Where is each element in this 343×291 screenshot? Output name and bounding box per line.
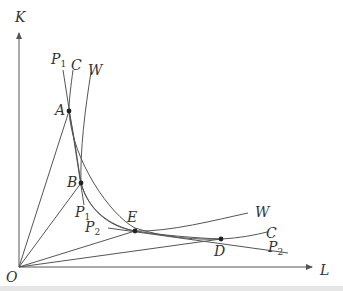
point-D — [219, 237, 224, 242]
point-A-label: A — [55, 103, 65, 117]
ray-OB — [19, 183, 81, 267]
point-D-label: D — [214, 244, 225, 258]
curve-P2-label-right: P2 — [268, 240, 283, 257]
y-axis-label: K — [15, 10, 25, 24]
origin-label: O — [6, 270, 17, 284]
point-E-label: E — [127, 210, 137, 224]
curve-W-label-right: W — [255, 205, 269, 219]
curve-W-label-top: W — [88, 63, 102, 77]
diagram-canvas: K L O A B E D P1 C W P1 P2 W C P2 — [0, 0, 343, 291]
x-axis-label: L — [320, 263, 329, 277]
curve-W — [81, 72, 248, 231]
point-E — [133, 229, 138, 234]
ray-OE — [19, 231, 135, 267]
bottom-border — [0, 286, 343, 291]
diagram-svg — [0, 0, 343, 291]
curve-P2-label-left: P2 — [85, 220, 100, 237]
curve-C-label-top: C — [71, 58, 82, 72]
point-B-label: B — [67, 175, 77, 189]
ray-OD — [19, 239, 221, 267]
point-A — [67, 109, 72, 114]
curve-C-label-right: C — [266, 226, 277, 240]
ray-OA — [19, 111, 69, 267]
point-B — [79, 181, 84, 186]
curve-P1-label-top: P1 — [51, 52, 66, 69]
